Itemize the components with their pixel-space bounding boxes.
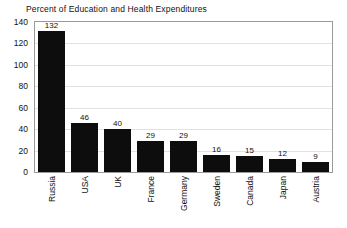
bar-sweden[interactable] bbox=[203, 155, 230, 172]
x-tick-label-austria: Austria bbox=[311, 176, 320, 202]
x-tick: Canada bbox=[233, 174, 266, 228]
bar-group[interactable]: 29 bbox=[137, 20, 164, 172]
bar-japan[interactable] bbox=[269, 159, 296, 172]
bar-group[interactable]: 12 bbox=[269, 20, 296, 172]
bar-group[interactable]: 132 bbox=[38, 20, 65, 172]
x-tick-label-canada: Canada bbox=[245, 176, 254, 206]
bar-uk[interactable] bbox=[104, 129, 131, 172]
x-tick-label-russia: Russia bbox=[47, 176, 56, 202]
bar-value-label: 15 bbox=[245, 146, 254, 155]
bar-chart-figure: Percent of Education and Health Expendit… bbox=[0, 0, 347, 228]
bar-value-label: 40 bbox=[113, 119, 122, 128]
x-tick-label-uk: UK bbox=[113, 176, 122, 188]
y-axis: 020406080100120140 bbox=[0, 21, 31, 173]
x-tick-label-japan: Japan bbox=[278, 176, 287, 199]
bar-value-label: 29 bbox=[179, 131, 188, 140]
bar-group[interactable]: 9 bbox=[302, 20, 329, 172]
x-tick: France bbox=[134, 174, 167, 228]
x-tick: USA bbox=[68, 174, 101, 228]
y-tick-label: 80 bbox=[19, 82, 28, 91]
bar-group[interactable]: 40 bbox=[104, 20, 131, 172]
bar-germany[interactable] bbox=[170, 141, 197, 172]
x-axis: RussiaUSAUKFranceGermanySwedenCanadaJapa… bbox=[34, 174, 333, 228]
bar-value-label: 16 bbox=[212, 145, 221, 154]
bar-value-label: 132 bbox=[45, 21, 58, 30]
x-tick: Japan bbox=[266, 174, 299, 228]
y-tick-label: 100 bbox=[14, 60, 28, 69]
y-tick-label: 140 bbox=[14, 18, 28, 27]
bar-russia[interactable] bbox=[38, 31, 65, 172]
x-tick-label-france: France bbox=[146, 176, 155, 202]
x-tick: UK bbox=[101, 174, 134, 228]
bar-value-label: 29 bbox=[146, 131, 155, 140]
y-tick-label: 120 bbox=[14, 39, 28, 48]
x-tick-label-usa: USA bbox=[80, 176, 89, 193]
y-tick-label: 0 bbox=[23, 168, 28, 177]
bar-value-label: 46 bbox=[80, 113, 89, 122]
x-tick: Russia bbox=[35, 174, 68, 228]
bar-canada[interactable] bbox=[236, 156, 263, 172]
bar-group[interactable]: 46 bbox=[71, 20, 98, 172]
x-tick: Germany bbox=[167, 174, 200, 228]
bar-austria[interactable] bbox=[302, 162, 329, 172]
y-tick-label: 60 bbox=[19, 103, 28, 112]
bar-usa[interactable] bbox=[71, 123, 98, 172]
x-tick: Austria bbox=[299, 174, 332, 228]
bar-group[interactable]: 16 bbox=[203, 20, 230, 172]
y-tick-label: 20 bbox=[19, 146, 28, 155]
x-tick-label-sweden: Sweden bbox=[212, 176, 221, 207]
x-tick-label-germany: Germany bbox=[179, 176, 188, 211]
bar-value-label: 12 bbox=[278, 149, 287, 158]
bar-france[interactable] bbox=[137, 141, 164, 172]
bars-layer: 132464029291615129 bbox=[34, 21, 333, 173]
chart-title: Percent of Education and Health Expendit… bbox=[26, 4, 207, 14]
bar-group[interactable]: 15 bbox=[236, 20, 263, 172]
x-tick: Sweden bbox=[200, 174, 233, 228]
bar-value-label: 9 bbox=[313, 152, 317, 161]
y-tick-label: 40 bbox=[19, 125, 28, 134]
bar-group[interactable]: 29 bbox=[170, 20, 197, 172]
